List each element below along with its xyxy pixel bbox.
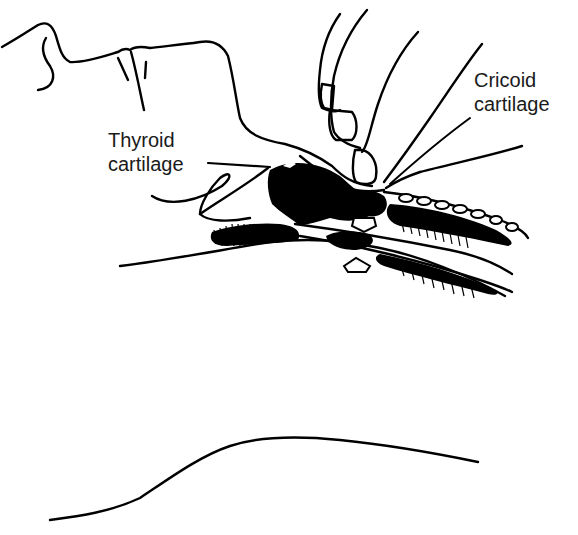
downward-pressure-arrow-icon bbox=[352, 218, 376, 232]
chin-detail bbox=[145, 62, 146, 78]
thyroid-cartilage-label: Thyroid cartilage bbox=[108, 128, 184, 176]
thyroid-leader-line bbox=[208, 163, 270, 167]
oesophagus-compressed-mass bbox=[326, 231, 373, 250]
cricoid-cartilage-label: Cricoid cartilage bbox=[474, 68, 550, 116]
tracheal-ring bbox=[453, 205, 467, 213]
lower-oesophagus-shading bbox=[376, 254, 498, 295]
ear-outline bbox=[38, 38, 53, 90]
face-profile-outline bbox=[2, 23, 372, 186]
lip-detail bbox=[131, 52, 144, 110]
finger-ring-nail bbox=[353, 150, 377, 184]
finger-ring bbox=[362, 32, 418, 152]
nose-detail bbox=[118, 58, 128, 80]
thyroid-label-line1: Thyroid bbox=[108, 128, 184, 152]
cricoid-label-line2: cartilage bbox=[474, 92, 550, 116]
tracheal-ring bbox=[471, 210, 485, 218]
finger-middle bbox=[331, 10, 367, 148]
upward-counter-arrow-icon bbox=[344, 258, 370, 272]
tracheal-ring bbox=[506, 223, 518, 231]
cricoid-leader-line bbox=[390, 118, 470, 184]
tracheal-ring bbox=[435, 201, 449, 209]
thyroid-label-line2: cartilage bbox=[108, 152, 184, 176]
posterior-wall-shading bbox=[211, 223, 299, 246]
illustration-canvas: Thyroid cartilage Cricoid cartilage bbox=[0, 0, 578, 535]
tracheal-ring bbox=[490, 216, 502, 224]
tracheal-ring bbox=[417, 197, 431, 205]
trachea-shading bbox=[387, 204, 512, 246]
cricoid-label-line1: Cricoid bbox=[474, 68, 550, 92]
tracheal-ring bbox=[399, 194, 413, 202]
chest-curve bbox=[50, 438, 478, 520]
